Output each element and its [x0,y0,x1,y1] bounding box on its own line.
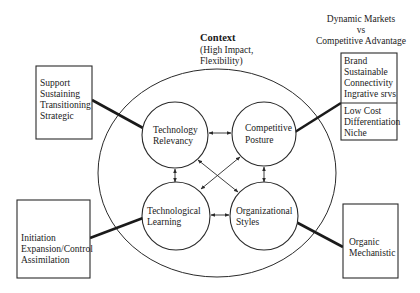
box-item: Organic [349,237,379,247]
connector-bottom-left [90,218,143,238]
node-technology-relevancy: Technology Relevancy [142,102,208,168]
header-right-line1: Dynamic Markets [327,14,396,24]
box-item: Initiation [21,233,56,243]
connector-top-right [295,103,341,132]
context-subtitle-line1: (High Impact, [200,45,253,56]
framework-diagram: Context (High Impact, Flexibility) Dynam… [0,0,420,293]
node-label-line1: Technological [147,206,201,216]
box-item: Sustainable [344,67,388,77]
node-circle [230,182,298,250]
header-right-line3: Competitive Advantage [316,36,406,46]
node-label-line1: Technology [153,125,198,135]
node-label-line2: Posture [245,135,274,145]
box-item: Strategic [40,111,74,121]
node-circle [232,102,296,166]
node-label-line1: Organizational [236,206,293,216]
node-label-line1: Competitive [245,123,292,133]
box-item: Niche [344,128,367,138]
box-item: Low Cost [344,106,382,116]
node-label-line2: Relevancy [153,136,193,146]
context-subtitle-line2: Flexibility) [200,56,243,67]
node-organizational-styles: Organizational Styles [230,182,298,250]
box-item: Ingrative srvs [344,89,396,99]
box-bottom-left: Initiation Expansion/Control Assimilatio… [17,200,93,278]
node-technological-learning: Technological Learning [142,182,210,250]
dynamic-markets-label: Dynamic Markets vs Competitive Advantage [316,14,406,46]
arrow-posture-learning [201,157,240,189]
box-item: Differentiation [344,117,401,127]
node-label-line2: Learning [147,217,182,227]
context-ellipse [98,69,336,277]
box-top-left: Support Sustaining Transitioning Strateg… [36,66,92,139]
box-item: Sustaining [40,89,80,99]
connector-top-left [92,100,143,128]
context-label: Context (High Impact, Flexibility) [200,32,253,67]
node-circle [142,182,210,250]
box-item: Brand [344,56,367,66]
box-item: Support [40,78,70,88]
node-label-line2: Styles [236,217,260,227]
arrow-relevancy-styles [198,160,238,192]
box-item: Assimilation [21,255,70,265]
box-item: Transitioning [40,100,91,110]
box-item: Connectivity [344,78,393,88]
header-right-line2: vs [357,25,366,35]
box-item: Mechanistic [349,248,395,258]
context-title: Context [200,32,236,43]
box-item: Expansion/Control [21,244,93,254]
box-top-right: Brand Sustainable Connectivity Ingrative… [341,53,401,140]
node-circle [142,102,208,168]
box-bottom-right: Organic Mechanistic [343,204,398,278]
node-competitive-posture: Competitive Posture [232,102,296,166]
